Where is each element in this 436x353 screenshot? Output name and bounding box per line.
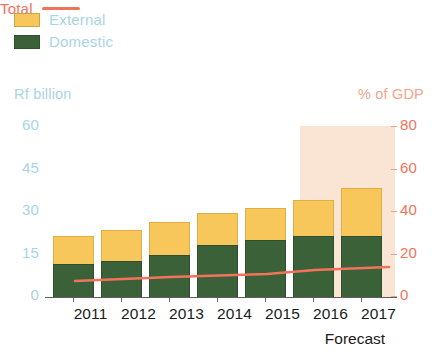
right-axis-tick-80: 80 [400, 116, 417, 133]
x-axis-tickmark [169, 298, 170, 302]
x-axis-tickmark [313, 298, 314, 302]
plot-area [45, 120, 395, 298]
legend-line-total [42, 7, 80, 10]
legend-label-external: External [49, 11, 106, 28]
forecast-caption: Forecast [300, 330, 410, 348]
x-axis-tickmark [265, 298, 266, 302]
left-axis-tick-30: 30 [22, 201, 39, 218]
x-axis-line [45, 297, 397, 298]
x-axis-tickmark [121, 298, 122, 302]
right-axis-tick-20: 20 [400, 244, 417, 261]
left-axis-tick-60: 60 [22, 116, 39, 133]
legend-label-domestic: Domestic [49, 33, 113, 50]
x-axis-tickmark [361, 298, 362, 302]
right-axis-tickmark [391, 169, 397, 170]
chart-container: External Domestic Total Rf billion % of … [0, 0, 436, 353]
right-axis-tickmark [391, 296, 397, 297]
x-axis-tickmark [73, 298, 74, 302]
left-axis-tick-labels: 015304560 [6, 0, 39, 353]
right-axis-tick-0: 0 [400, 286, 409, 303]
right-axis-tickmark [391, 254, 397, 255]
left-axis-tick-15: 15 [22, 244, 39, 261]
total-line-path [75, 267, 389, 281]
left-axis-tick-0: 0 [30, 286, 39, 303]
right-axis-tickmark [391, 126, 397, 127]
x-axis-tickmark [217, 298, 218, 302]
x-axis-labels: 2011201220132014201520162017 [0, 305, 436, 329]
total-line-chart [45, 120, 395, 298]
right-axis-tick-60: 60 [400, 159, 417, 176]
left-axis-tick-45: 45 [22, 159, 39, 176]
right-axis-tick-40: 40 [400, 201, 417, 218]
x-axis-label-2017: 2017 [351, 305, 407, 323]
right-axis-tick-labels: 020406080 [400, 0, 436, 353]
right-axis-tickmark [391, 211, 397, 212]
